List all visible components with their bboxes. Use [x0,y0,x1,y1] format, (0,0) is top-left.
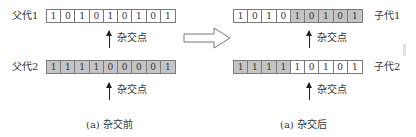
gene-cell: 1 [104,10,118,22]
gene-cell: 0 [132,61,146,73]
gene-cell: 1 [319,10,333,22]
child1-label: 子代1 [374,10,400,22]
crossover-arrow-icon [109,31,110,48]
gene-cell: 1 [319,61,333,73]
gene-cell: 0 [118,10,132,22]
child1-chromosome: 101010101 [233,9,363,23]
gene-cell: 0 [334,61,348,73]
hollow-right-arrow-icon [183,26,233,50]
gene-cell: 0 [147,10,161,22]
parent1-label: 父代1 [12,10,38,22]
child2-chromosome: 111110101 [233,60,363,74]
gene-cell: 1 [132,10,146,22]
edge-artifact [403,44,406,56]
gene-cell: 0 [305,10,319,22]
gene-cell: 1 [161,10,175,22]
gene-cell: 0 [305,61,319,73]
parent2-label: 父代2 [12,61,38,73]
crossover-point-label: 杂交点 [117,32,147,44]
gene-cell: 1 [47,61,61,73]
caption-after: (a) 杂交后 [280,119,327,131]
gene-cell: 1 [61,61,75,73]
gene-cell: 0 [118,61,132,73]
gene-cell: 0 [90,10,104,22]
gene-cell: 1 [348,10,362,22]
gene-cell: 1 [90,61,104,73]
crossover-arrow-icon [309,83,310,100]
gene-cell: 1 [75,61,89,73]
crossover-arrow-icon [309,31,310,48]
gene-cell: 0 [334,10,348,22]
gene-cell: 1 [161,61,175,73]
gene-cell: 0 [277,10,291,22]
gene-cell: 1 [348,61,362,73]
gene-cell: 0 [61,10,75,22]
crossover-point-label: 杂交点 [117,84,147,96]
caption-before: (a) 杂交前 [86,119,133,131]
gene-cell: 1 [248,61,262,73]
parent2-chromosome: 111100001 [46,60,176,74]
gene-cell: 1 [262,61,276,73]
gene-cell: 1 [291,10,305,22]
gene-cell: 1 [75,10,89,22]
gene-cell: 1 [291,61,305,73]
gene-cell: 1 [234,61,248,73]
crossover-point-label: 杂交点 [317,32,347,44]
child2-label: 子代2 [374,61,400,73]
crossover-arrow-icon [109,83,110,100]
gene-cell: 1 [234,10,248,22]
gene-cell: 0 [147,61,161,73]
gene-cell: 1 [262,10,276,22]
crossover-point-label: 杂交点 [317,84,347,96]
gene-cell: 1 [47,10,61,22]
gene-cell: 1 [277,61,291,73]
gene-cell: 0 [104,61,118,73]
gene-cell: 0 [248,10,262,22]
parent1-chromosome: 101010101 [46,9,176,23]
